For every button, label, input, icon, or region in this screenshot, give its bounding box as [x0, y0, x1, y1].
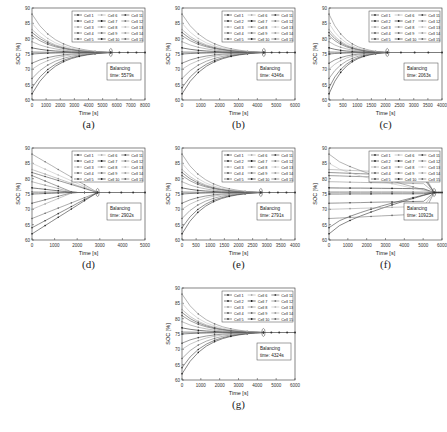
legend-entry: Cell 9	[258, 32, 268, 36]
legend-entry: Cell 1	[381, 14, 391, 18]
x-axis-label: Time [s]	[376, 250, 396, 256]
y-tick-label: 65	[175, 223, 181, 228]
subplot-f: 606570758085900100020003000400050006000T…	[297, 140, 447, 280]
legend-entry: Cell 7	[108, 160, 118, 164]
y-tick-label: 90	[25, 146, 31, 151]
legend-entry: Cell 10	[108, 178, 120, 182]
y-axis-label: SOC [%]	[312, 183, 318, 205]
legend-entry: Cell 3	[381, 26, 391, 30]
x-tick-label: 1000	[196, 103, 207, 108]
legend-entry: Cell 6	[405, 154, 415, 158]
legend-entry: Cell 13	[131, 26, 143, 30]
legend-entry: Cell 9	[405, 32, 415, 36]
legend-entry: Cell 3	[234, 26, 244, 30]
x-tick-label: 3000	[380, 243, 391, 248]
legend-entry: Cell 3	[84, 26, 94, 30]
legend-entry: Cell 2	[381, 20, 391, 24]
x-tick-label: 4000	[252, 103, 263, 108]
x-tick-label: 3000	[233, 383, 244, 388]
x-tick-label: 1500	[219, 243, 230, 248]
legend-entry: Cell 14	[281, 172, 293, 176]
legend-entry: Cell 15	[131, 178, 143, 182]
y-tick-label: 60	[322, 98, 328, 103]
subplot-caption-b: (b)	[182, 118, 295, 130]
x-tick-label: 0	[31, 243, 34, 248]
x-tick-label: 3500	[423, 103, 434, 108]
legend-entry: Cell 13	[281, 306, 293, 310]
balancing-time-value: time: 10923s	[407, 213, 434, 218]
legend-entry: Cell 15	[428, 178, 440, 182]
y-tick-label: 90	[322, 6, 328, 11]
y-axis-label: SOC [%]	[165, 323, 171, 345]
subplot-c: 6065707580859005001000150020002500300035…	[297, 0, 447, 140]
legend-entry: Cell 4	[381, 172, 391, 176]
x-tick-label: 0	[328, 103, 331, 108]
legend-entry: Cell 7	[108, 20, 118, 24]
legend: Cell 1Cell 2Cell 3Cell 4Cell 5Cell 6Cell…	[72, 11, 143, 42]
x-tick-label: 3000	[69, 103, 80, 108]
legend-entry: Cell 2	[234, 20, 244, 24]
y-tick-label: 65	[25, 83, 31, 88]
legend-entry: Cell 10	[405, 38, 417, 42]
y-tick-label: 85	[175, 301, 181, 306]
y-axis-label: SOC [%]	[15, 183, 21, 205]
y-tick-label: 70	[175, 347, 181, 352]
legend-entry: Cell 13	[281, 26, 293, 30]
legend-entry: Cell 9	[405, 172, 415, 176]
legend-entry: Cell 8	[405, 166, 415, 170]
legend-entry: Cell 11	[131, 14, 143, 18]
x-tick-label: 2000	[72, 243, 83, 248]
legend: Cell 1Cell 2Cell 3Cell 4Cell 5Cell 6Cell…	[222, 11, 293, 42]
subplot-caption-g: (g)	[182, 398, 295, 410]
legend-entry: Cell 8	[108, 26, 118, 30]
x-tick-label: 1000	[205, 243, 216, 248]
legend-entry: Cell 5	[234, 318, 244, 322]
legend-entry: Cell 9	[108, 172, 118, 176]
y-tick-label: 80	[175, 317, 181, 322]
legend-entry: Cell 8	[258, 26, 268, 30]
x-axis-label: Time [s]	[229, 390, 249, 396]
y-tick-label: 85	[25, 161, 31, 166]
legend-entry: Cell 2	[234, 300, 244, 304]
balancing-time-value: time: 2063s	[407, 73, 431, 78]
x-tick-label: 2000	[215, 103, 226, 108]
subplot-caption-f: (f)	[329, 258, 442, 270]
legend: Cell 1Cell 2Cell 3Cell 4Cell 5Cell 6Cell…	[222, 151, 293, 182]
legend-entry: Cell 14	[428, 32, 440, 36]
legend-entry: Cell 8	[258, 306, 268, 310]
legend-entry: Cell 7	[258, 20, 268, 24]
y-tick-label: 85	[175, 21, 181, 26]
legend-entry: Cell 12	[281, 160, 293, 164]
legend-entry: Cell 10	[258, 318, 270, 322]
balancing-label: Balancing	[260, 206, 281, 211]
y-tick-label: 70	[322, 67, 328, 72]
legend-entry: Cell 1	[84, 154, 94, 158]
legend: Cell 1Cell 2Cell 3Cell 4Cell 5Cell 6Cell…	[72, 151, 143, 182]
subplot-caption-d: (d)	[32, 258, 145, 270]
x-axis-label: Time [s]	[376, 110, 396, 116]
y-tick-label: 90	[25, 6, 31, 11]
legend-entry: Cell 7	[258, 300, 268, 304]
legend-entry: Cell 10	[258, 178, 270, 182]
y-tick-label: 70	[322, 207, 328, 212]
x-tick-label: 5000	[98, 103, 109, 108]
y-tick-label: 90	[175, 286, 181, 291]
x-tick-label: 0	[328, 243, 331, 248]
y-tick-label: 75	[175, 332, 181, 337]
x-tick-label: 4000	[252, 383, 263, 388]
legend: Cell 1Cell 2Cell 3Cell 4Cell 5Cell 6Cell…	[369, 11, 440, 42]
legend-entry: Cell 6	[258, 294, 268, 298]
x-tick-label: 2500	[395, 103, 406, 108]
legend-entry: Cell 12	[131, 20, 143, 24]
legend-entry: Cell 1	[234, 14, 244, 18]
legend-entry: Cell 7	[405, 160, 415, 164]
x-tick-label: 4000	[437, 103, 447, 108]
subplot-a: 6065707580859001000200030004000500060007…	[0, 0, 150, 140]
y-tick-label: 85	[175, 161, 181, 166]
legend-entry: Cell 15	[281, 178, 293, 182]
legend: Cell 1Cell 2Cell 3Cell 4Cell 5Cell 6Cell…	[369, 151, 440, 182]
y-tick-label: 60	[322, 238, 328, 243]
legend-entry: Cell 4	[234, 172, 244, 176]
y-tick-label: 70	[175, 207, 181, 212]
legend-entry: Cell 1	[234, 154, 244, 158]
